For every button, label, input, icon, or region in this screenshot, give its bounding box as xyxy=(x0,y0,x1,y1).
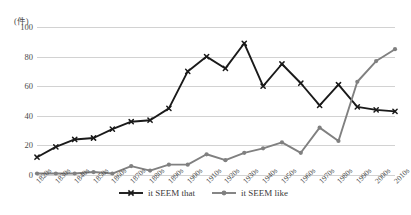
legend-label: it SEEM like xyxy=(241,188,288,198)
data-point-marker xyxy=(336,83,340,87)
series-line xyxy=(37,49,395,173)
y-axis-tick-label: 0 xyxy=(29,170,33,180)
data-point-marker xyxy=(280,140,284,144)
y-axis-tick-label: 60 xyxy=(25,81,34,91)
data-point-marker xyxy=(299,151,303,155)
y-axis-tick-label: 20 xyxy=(25,140,34,150)
legend-label: it SEEM that xyxy=(148,188,195,198)
data-point-marker xyxy=(299,81,303,85)
y-axis-tick-label: 80 xyxy=(25,52,34,62)
data-point-marker xyxy=(336,139,340,143)
data-point-marker xyxy=(318,126,322,130)
data-point-marker xyxy=(148,168,152,172)
data-point-marker xyxy=(374,59,378,63)
x-marker-icon xyxy=(118,188,144,198)
series-layer xyxy=(37,27,395,175)
data-point-marker xyxy=(204,152,208,156)
data-point-marker xyxy=(223,158,227,162)
data-point-marker xyxy=(393,47,397,51)
data-point-marker xyxy=(355,80,359,84)
circle-marker-icon xyxy=(211,188,237,198)
data-point-marker xyxy=(318,103,322,107)
data-point-marker xyxy=(186,163,190,167)
legend-item[interactable]: it SEEM that xyxy=(118,188,195,198)
data-point-marker xyxy=(280,62,284,66)
data-point-marker xyxy=(167,163,171,167)
data-point-marker xyxy=(261,146,265,150)
data-point-marker xyxy=(129,164,133,168)
chart-legend: it SEEM thatit SEEM like xyxy=(0,188,406,198)
data-point-marker xyxy=(242,151,246,155)
plot-area: 020406080100 xyxy=(37,27,395,175)
legend-item[interactable]: it SEEM like xyxy=(211,188,288,198)
y-axis-tick-label: 40 xyxy=(25,111,34,121)
y-axis-tick-label: 100 xyxy=(20,22,33,32)
